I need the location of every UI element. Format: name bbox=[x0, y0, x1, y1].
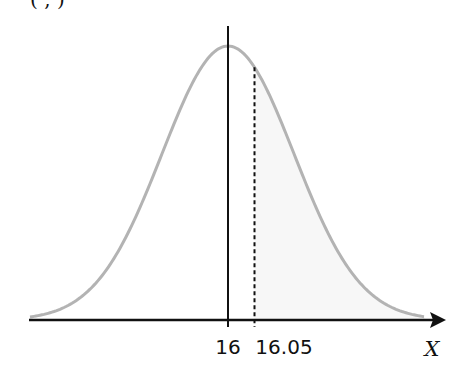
mean-tick-label: 16 bbox=[215, 335, 240, 359]
title-fragment: ( , ) bbox=[30, 0, 65, 11]
value-tick-label: 16.05 bbox=[255, 335, 312, 359]
x-axis-label: X bbox=[423, 337, 441, 361]
normal-distribution-diagram: ( , ) 16 16.05 X bbox=[0, 0, 458, 373]
shaded-tail-region bbox=[255, 67, 426, 320]
